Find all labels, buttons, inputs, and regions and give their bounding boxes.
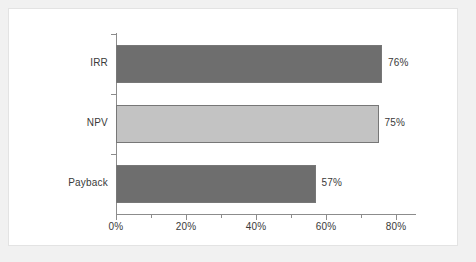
- category-label-irr: IRR: [9, 57, 108, 68]
- bar-irr[interactable]: [116, 45, 382, 83]
- x-axis-tick-label: 60%: [316, 221, 337, 232]
- x-axis-minor-tick: [361, 215, 362, 218]
- x-axis-minor-tick: [221, 215, 222, 218]
- x-axis-major-tick: [326, 215, 327, 220]
- bar-value-label-payback: 57%: [322, 177, 343, 188]
- x-axis-minor-tick: [151, 215, 152, 218]
- x-axis-minor-tick: [291, 215, 292, 218]
- bar-payback[interactable]: [116, 165, 316, 203]
- bar-value-label-irr: 76%: [388, 57, 409, 68]
- category-label-npv: NPV: [9, 117, 108, 128]
- bar-npv[interactable]: [116, 105, 379, 143]
- y-axis-tick: [111, 154, 116, 155]
- x-axis-tick-label: 40%: [246, 221, 267, 232]
- x-axis-tick-label: 20%: [176, 221, 197, 232]
- chart-panel: 0%20%40%60%80% IRRNPVPayback 76%75%57%: [8, 8, 458, 246]
- bar-value-label-npv: 75%: [385, 117, 406, 128]
- y-axis-tick: [111, 94, 116, 95]
- x-axis-tick-label: 80%: [386, 221, 407, 232]
- chart-page: 0%20%40%60%80% IRRNPVPayback 76%75%57%: [0, 0, 476, 262]
- x-axis-line: [116, 214, 416, 215]
- category-label-payback: Payback: [9, 177, 108, 188]
- x-axis-major-tick: [396, 215, 397, 220]
- x-axis-tick-label: 0%: [109, 221, 124, 232]
- x-axis-major-tick: [116, 215, 117, 220]
- x-axis-major-tick: [186, 215, 187, 220]
- x-axis-major-tick: [256, 215, 257, 220]
- y-axis-tick: [111, 34, 116, 35]
